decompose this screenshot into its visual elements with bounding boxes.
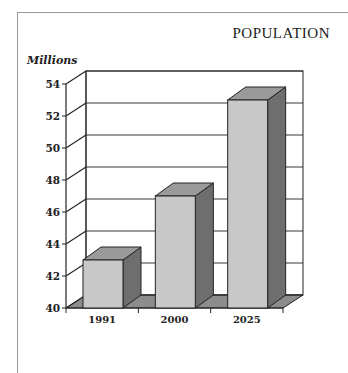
x-tick-label: 1991 bbox=[88, 314, 116, 325]
y-tick-label: 52 bbox=[45, 110, 60, 122]
x-tick-label: 2000 bbox=[161, 314, 189, 325]
y-tick-label: 50 bbox=[45, 142, 60, 154]
gridline-depth bbox=[66, 135, 86, 148]
y-tick-label: 54 bbox=[45, 78, 60, 90]
x-tick-label: 2025 bbox=[233, 314, 261, 325]
y-tick-label: 48 bbox=[45, 174, 60, 186]
y-tick-label: 46 bbox=[45, 206, 60, 218]
gridline-depth bbox=[66, 167, 86, 180]
gridline-depth bbox=[66, 231, 86, 244]
gridline-depth bbox=[66, 71, 86, 84]
gridline-depth bbox=[66, 103, 86, 116]
plot-area: 4042444648505254199120002025 bbox=[45, 71, 303, 325]
y-tick-label: 42 bbox=[45, 270, 60, 282]
bar-2000 bbox=[155, 183, 213, 308]
bar-1991 bbox=[83, 247, 141, 308]
gridline-depth bbox=[66, 199, 86, 212]
y-tick-label: 40 bbox=[45, 302, 60, 314]
y-tick-label: 44 bbox=[45, 238, 60, 250]
bar-2025 bbox=[228, 87, 286, 308]
